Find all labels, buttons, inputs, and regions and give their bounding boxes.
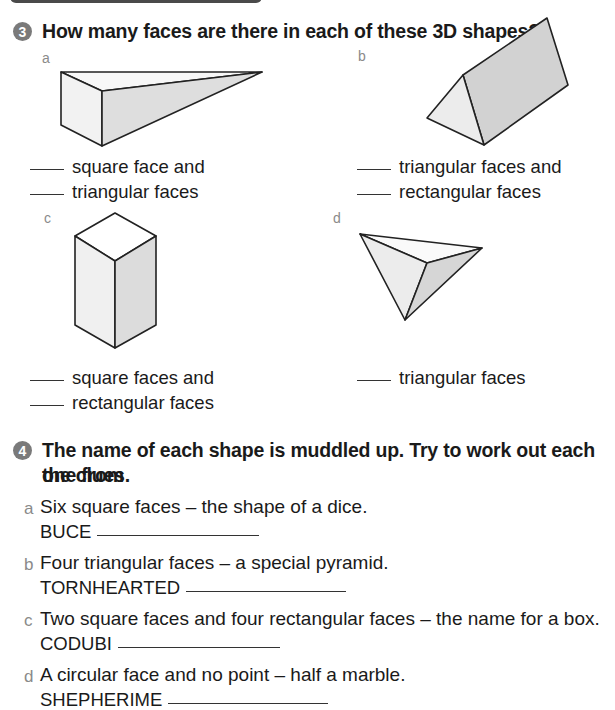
shape-c-icon bbox=[75, 213, 156, 348]
clue-c-label: c bbox=[24, 611, 33, 631]
answer-blank[interactable] bbox=[357, 169, 391, 170]
answer-blank[interactable] bbox=[357, 380, 391, 381]
clue-c-text: Two square faces and four rectangular fa… bbox=[40, 607, 600, 631]
answer-blank[interactable] bbox=[30, 194, 64, 195]
shape-a-answer-1: square face and bbox=[30, 155, 205, 179]
shape-a-answer-2: triangular faces bbox=[30, 180, 198, 204]
answer-text: rectangular faces bbox=[72, 392, 214, 413]
clue-c-anagram-row: CODUBI bbox=[40, 632, 280, 656]
answer-blank[interactable] bbox=[30, 380, 64, 381]
anagram-text: BUCE bbox=[40, 521, 91, 542]
clue-b-text: Four triangular faces – a special pyrami… bbox=[40, 551, 389, 575]
question-4-badge: 4 bbox=[13, 441, 32, 460]
shape-d-answer-1: triangular faces bbox=[357, 366, 525, 390]
answer-text: square face and bbox=[72, 156, 205, 177]
answer-blank[interactable] bbox=[30, 169, 64, 170]
answer-blank[interactable] bbox=[357, 194, 391, 195]
shape-c-answer-1: square faces and bbox=[30, 366, 214, 390]
answer-line[interactable] bbox=[118, 647, 280, 648]
question-4-title-line2: the clues. bbox=[42, 463, 130, 488]
clue-a-label: a bbox=[24, 499, 33, 519]
clue-a-anagram-row: BUCE bbox=[40, 520, 259, 544]
shape-b-icon bbox=[427, 18, 568, 145]
shape-b-answer-1: triangular faces and bbox=[357, 155, 562, 179]
shape-a-icon bbox=[61, 72, 262, 146]
clue-b-anagram-row: TORNHEARTED bbox=[40, 576, 346, 600]
answer-line[interactable] bbox=[168, 703, 328, 704]
clue-b-label: b bbox=[24, 555, 33, 575]
clue-a-text: Six square faces – the shape of a dice. bbox=[40, 495, 367, 519]
clue-d-label: d bbox=[24, 667, 33, 687]
answer-text: rectangular faces bbox=[399, 181, 541, 202]
answer-line[interactable] bbox=[186, 591, 346, 592]
answer-text: triangular faces bbox=[399, 367, 525, 388]
answer-text: triangular faces and bbox=[399, 156, 562, 177]
shape-c-answer-2: rectangular faces bbox=[30, 391, 214, 415]
answer-text: triangular faces bbox=[72, 181, 198, 202]
question-number: 4 bbox=[19, 443, 27, 459]
anagram-text: SHEPHERIME bbox=[40, 689, 162, 710]
shape-d-icon bbox=[360, 234, 482, 320]
shape-b-answer-2: rectangular faces bbox=[357, 180, 541, 204]
anagram-text: TORNHEARTED bbox=[40, 577, 180, 598]
answer-text: square faces and bbox=[72, 367, 214, 388]
clue-d-anagram-row: SHEPHERIME bbox=[40, 688, 328, 710]
anagram-text: CODUBI bbox=[40, 633, 112, 654]
answer-line[interactable] bbox=[97, 535, 259, 536]
clue-d-text: A circular face and no point – half a ma… bbox=[40, 663, 405, 687]
answer-blank[interactable] bbox=[30, 405, 64, 406]
